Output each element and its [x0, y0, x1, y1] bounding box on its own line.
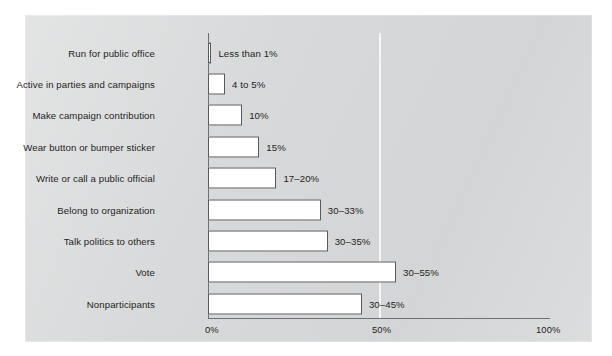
x-tick-50: 50% [372, 324, 391, 335]
bar-value-label: 30–35% [335, 236, 371, 247]
bar [208, 262, 396, 283]
category-label: Belong to organization [57, 204, 155, 215]
bar-group: 30–35% [208, 231, 371, 252]
bar-row: Nonparticipants30–45% [25, 288, 592, 319]
bar-group: 30–55% [208, 262, 439, 283]
category-label: Make campaign contribution [32, 110, 155, 121]
bar-group: Less than 1% [208, 42, 278, 63]
x-tick-100: 100% [536, 324, 560, 335]
bar-value-label: 30–33% [328, 204, 364, 215]
bar-group: 10% [208, 105, 269, 126]
category-label: Active in parties and campaigns [16, 79, 155, 90]
bar-row: Active in parties and campaigns4 to 5% [25, 68, 592, 99]
bar [208, 74, 225, 95]
category-label: Wear button or bumper sticker [23, 141, 155, 152]
category-label: Talk politics to others [64, 236, 155, 247]
bar [208, 199, 321, 220]
bar-value-label: 30–55% [403, 267, 439, 278]
bar [208, 105, 242, 126]
bar-group: 4 to 5% [208, 74, 265, 95]
bar-row: Write or call a public official17–20% [25, 163, 592, 194]
category-label: Vote [135, 267, 155, 278]
bar [208, 293, 362, 314]
bar-row: Run for public officeLess than 1% [25, 37, 592, 68]
bar-group: 17–20% [208, 168, 319, 189]
bar-row: Make campaign contribution10% [25, 100, 592, 131]
bar-group: 30–45% [208, 293, 405, 314]
bar-row: Belong to organization30–33% [25, 194, 592, 225]
bar-row: Talk politics to others30–35% [25, 225, 592, 256]
plot-area: Run for public officeLess than 1%Active … [25, 15, 592, 342]
category-label: Write or call a public official [36, 173, 155, 184]
category-label: Run for public office [68, 47, 155, 58]
bar-value-label: 17–20% [283, 173, 319, 184]
chart-panel: Run for public officeLess than 1%Active … [25, 15, 592, 342]
bar-group: 30–33% [208, 199, 364, 220]
bar-value-label: 10% [249, 110, 269, 121]
bar [208, 136, 259, 157]
bar-value-label: Less than 1% [218, 47, 277, 58]
bar [208, 42, 211, 63]
category-label: Nonparticipants [87, 298, 155, 309]
bar-row: Wear button or bumper sticker15% [25, 131, 592, 162]
bar-value-label: 15% [266, 141, 286, 152]
bar-row: Vote30–55% [25, 257, 592, 288]
x-axis-tick-labels: 0% 50% 100% [25, 324, 592, 340]
bar-rows: Run for public officeLess than 1%Active … [25, 37, 592, 320]
bar [208, 231, 328, 252]
x-tick-0: 0% [205, 324, 219, 335]
bar-value-label: 4 to 5% [232, 79, 265, 90]
bar-group: 15% [208, 136, 286, 157]
bar [208, 168, 276, 189]
bar-value-label: 30–45% [369, 298, 405, 309]
